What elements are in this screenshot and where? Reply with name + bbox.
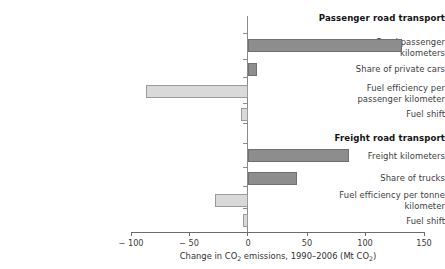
- xtick-mark-150: [424, 232, 425, 236]
- xtick-mark-50: [307, 232, 308, 236]
- x-axis-title: Change in CO2 emissions, 1990–2006 (Mt C…: [180, 251, 376, 261]
- xtick-label--100: − 100: [118, 238, 143, 248]
- xtick-mark-0: [247, 232, 248, 236]
- plot-area: Passenger road transport Road passenger …: [0, 0, 445, 269]
- xtick-mark--50: [189, 232, 190, 236]
- category-label-fuel-shift-passenger: Fuel shift: [273, 109, 445, 120]
- ytick-7: [243, 186, 247, 187]
- ytick-5: [243, 143, 247, 144]
- ytick-1: [243, 59, 247, 60]
- xtick-label-0: 0: [245, 238, 250, 248]
- ytick-0: [243, 33, 247, 34]
- x-axis-title-pre: Change in CO: [180, 251, 237, 261]
- xtick-mark-100: [365, 232, 366, 236]
- ytick-3: [243, 103, 247, 104]
- bar-share-of-trucks: [248, 172, 297, 185]
- bar-road-passenger-kilometers: [248, 39, 402, 52]
- ytick-4: [243, 123, 247, 124]
- bar-fuel-efficiency-per-tonne-kilometer: [215, 194, 248, 207]
- xtick-label-100: 100: [357, 238, 373, 248]
- xtick-label--50: − 50: [179, 238, 199, 248]
- ytick-2: [243, 77, 247, 78]
- group-header-passenger-road-transport: Passenger road transport: [273, 13, 445, 24]
- bar-share-of-private-cars: [248, 63, 257, 76]
- xtick-mark--100: [131, 232, 132, 236]
- bar-freight-kilometers: [248, 149, 349, 162]
- ytick-6: [243, 167, 247, 168]
- group-header-freight-road-transport: Freight road transport: [273, 133, 445, 144]
- category-label-fuel-efficiency-per-passenger-kilometer: Fuel efficiency per passenger kilometer: [273, 83, 445, 104]
- x-axis-title-sub-1: 2: [237, 255, 241, 262]
- bar-fuel-shift-freight: [243, 214, 248, 227]
- bar-fuel-shift-passenger: [241, 108, 248, 121]
- category-label-fuel-shift-freight: Fuel shift: [273, 216, 445, 227]
- bar-fuel-efficiency-per-passenger-kilometer: [146, 85, 248, 98]
- co2-emissions-bar-chart: Passenger road transport Road passenger …: [0, 0, 445, 269]
- category-label-share-of-trucks: Share of trucks: [273, 173, 445, 184]
- category-label-fuel-efficiency-per-tonne-kilometer: Fuel efficiency per tonne kilometer: [273, 190, 445, 211]
- category-label-share-of-private-cars: Share of private cars: [273, 64, 445, 75]
- xtick-label-150: 150: [416, 238, 432, 248]
- x-axis-title-post: ): [373, 251, 376, 261]
- x-axis-title-sub-2: 2: [369, 255, 373, 262]
- x-axis-title-mid: emissions, 1990–2006 (Mt CO: [241, 251, 369, 261]
- x-axis-line: [131, 232, 425, 233]
- xtick-label-50: 50: [302, 238, 312, 248]
- ytick-8: [243, 208, 247, 209]
